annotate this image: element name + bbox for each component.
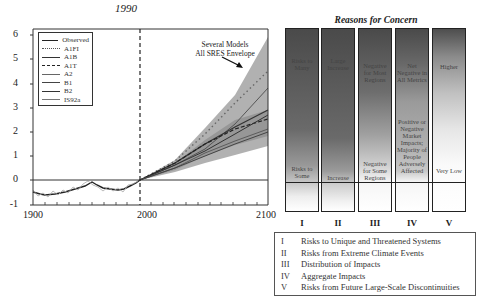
y-tick: 0 bbox=[4, 173, 18, 184]
y-tick: 1 bbox=[4, 149, 18, 160]
column-II-lower-label: Increase bbox=[322, 174, 354, 181]
column-V-numeral: V bbox=[432, 218, 466, 228]
y-tick: 3 bbox=[4, 101, 18, 112]
legend-item-a1t: A1T bbox=[42, 62, 89, 71]
annotation-arrow bbox=[222, 57, 240, 66]
y-tick: -1 bbox=[4, 198, 18, 209]
column-I bbox=[285, 28, 319, 212]
legend-item-a1fi: A1FI bbox=[42, 45, 89, 54]
baseline-divider bbox=[285, 182, 466, 183]
column-III-lower-label: Negative for Some Regions bbox=[359, 160, 391, 181]
column-III-numeral: III bbox=[358, 218, 392, 228]
column-III-upper-label: Negative for Most Regions bbox=[359, 62, 391, 83]
column-V-lower-label: Very Low bbox=[433, 167, 465, 174]
legend-item-is92a: IS92a bbox=[42, 96, 89, 105]
column-II bbox=[321, 28, 355, 212]
x-tick: 1900 bbox=[23, 209, 43, 220]
y-tick: 2 bbox=[4, 125, 18, 136]
legend-item-observed: Observed bbox=[42, 36, 89, 45]
key-row: IIRisks from Extreme Climate Events bbox=[281, 248, 469, 260]
panel-title: Reasons for Concern bbox=[283, 15, 469, 25]
chart-legend: Observed A1FI A1B A1T A2 B1 B2 IS92a bbox=[38, 32, 93, 106]
column-IV-upper-label: Net Negative in All Metrics bbox=[396, 62, 428, 83]
column-I-lower-label: Risks to Some bbox=[286, 165, 318, 179]
column-V bbox=[432, 28, 466, 212]
column-III bbox=[358, 28, 392, 212]
y-tick: 5 bbox=[4, 52, 18, 63]
column-IV-lower-label: Positive or Negative Market Impacts; Maj… bbox=[396, 118, 428, 174]
x-tick: 2100 bbox=[256, 209, 276, 220]
concern-key: IRisks to Unique and Threatened Systems … bbox=[274, 232, 476, 296]
key-row: IRisks to Unique and Threatened Systems bbox=[281, 236, 469, 248]
envelope-annotation: Several Models All SRES Envelope bbox=[184, 40, 266, 58]
column-IV-numeral: IV bbox=[395, 218, 429, 228]
legend-item-b1: B1 bbox=[42, 79, 89, 88]
column-V-upper-label: Higher bbox=[433, 63, 465, 70]
y-tick: 6 bbox=[4, 28, 18, 39]
column-II-upper-label: Large Increase bbox=[322, 57, 354, 71]
legend-item-b2: B2 bbox=[42, 87, 89, 96]
legend-item-a1b: A1B bbox=[42, 53, 89, 62]
column-I-upper-label: Risks to Many bbox=[286, 57, 318, 71]
column-I-numeral: I bbox=[285, 218, 319, 228]
x-tick: 2000 bbox=[137, 209, 157, 220]
key-row: IVAggregate Impacts bbox=[281, 271, 469, 283]
key-row: IIIDistribution of Impacts bbox=[281, 259, 469, 271]
legend-item-a2: A2 bbox=[42, 70, 89, 79]
y-tick: 4 bbox=[4, 77, 18, 88]
key-row: VRisks from Future Large-Scale Discontin… bbox=[281, 282, 469, 294]
column-II-numeral: II bbox=[321, 218, 355, 228]
